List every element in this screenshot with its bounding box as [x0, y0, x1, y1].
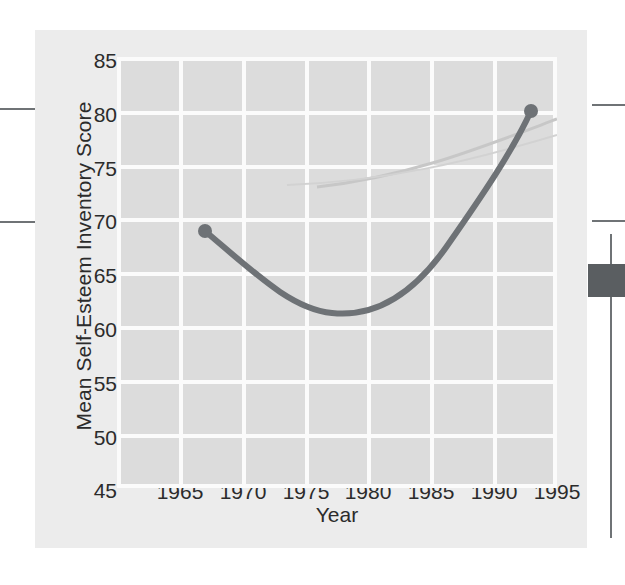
y-tick-label: 60 — [69, 319, 117, 340]
data-series-curve — [117, 57, 557, 488]
y-tick-label: 70 — [69, 211, 117, 232]
data-point-start — [198, 224, 212, 238]
chart-figure: Mean Self-Esteem Inventory Score 85 80 7… — [35, 30, 587, 548]
page-rule-left-bottom — [0, 221, 38, 223]
page-rule-right-top — [592, 104, 625, 106]
y-tick-label: 75 — [69, 158, 117, 179]
plot-area — [117, 57, 557, 488]
x-axis-title: Year — [117, 503, 557, 527]
y-tick-label: 55 — [69, 373, 117, 394]
page-rule-right-middle — [592, 220, 625, 222]
y-tick-label: 50 — [69, 427, 117, 448]
page-dark-block — [588, 264, 625, 297]
y-tick-label: 45 — [69, 480, 117, 501]
y-tick-label: 65 — [69, 265, 117, 286]
y-tick-label: 85 — [69, 50, 117, 71]
y-tick-label: 80 — [69, 104, 117, 125]
data-point-end — [524, 104, 538, 118]
self-esteem-curve — [205, 111, 531, 314]
page-rule-left-top — [0, 108, 38, 110]
